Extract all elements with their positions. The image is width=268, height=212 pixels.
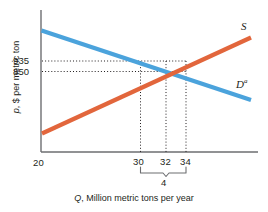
y-tick-label-850: 850 — [13, 67, 29, 77]
y-tick-label-935: 935 — [13, 56, 29, 66]
y-axis-title: p, $ per metric ton — [11, 17, 21, 137]
x-tick-label-34: 34 — [180, 157, 191, 167]
x-tick-label-32: 32 — [160, 157, 171, 167]
supply-curve-label: S — [241, 20, 247, 32]
demand-curve-label-superscript: a — [244, 77, 248, 85]
quantity-gap-label: 4 — [161, 178, 166, 188]
x-tick-label-20: 20 — [33, 158, 44, 168]
demand-curve-label: Da — [236, 77, 247, 90]
chart-plot-area — [0, 0, 268, 212]
y-axis-title-symbol: p — [11, 108, 21, 113]
x-axis-title-text: , Million metric tons per year — [81, 193, 194, 203]
supply-demand-chart: p, $ per metric ton 935 850 20 30 32 34 … — [0, 0, 268, 212]
x-axis-title: Q, Million metric tons per year — [0, 193, 268, 203]
quantity-gap-brace — [141, 167, 187, 177]
x-tick-label-30: 30 — [133, 157, 144, 167]
demand-curve — [42, 31, 252, 101]
supply-curve — [42, 38, 251, 134]
demand-curve-label-base: D — [236, 78, 244, 90]
